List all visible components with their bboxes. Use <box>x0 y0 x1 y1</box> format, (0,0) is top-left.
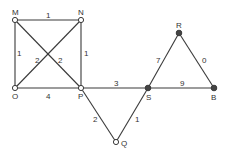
edge-p-q <box>81 88 116 142</box>
node-label-r: R <box>176 21 182 30</box>
edge-s-r <box>148 33 179 88</box>
edge-weight-label: 0 <box>202 56 207 65</box>
node-label-n: N <box>78 8 84 17</box>
labels-layer: MNOPSRBQ <box>12 8 216 148</box>
edge-weight-label: 3 <box>114 79 119 88</box>
edge-weight-label: 2 <box>58 56 63 65</box>
graph-diagram: 111224397021 MNOPSRBQ <box>0 0 229 157</box>
edge-weight-label: 2 <box>35 56 40 65</box>
node-q-icon <box>113 139 118 144</box>
node-label-o: O <box>12 92 18 101</box>
node-n-icon <box>78 17 83 22</box>
edge-weight-label: 1 <box>135 115 140 124</box>
edge-weight-label: 1 <box>84 49 89 58</box>
node-label-s: S <box>146 93 151 102</box>
edge-s-q <box>116 88 148 142</box>
node-s-icon <box>145 85 151 91</box>
node-label-q: Q <box>121 139 127 148</box>
edge-weight-label: 1 <box>17 49 22 58</box>
edge-weight-label: 9 <box>180 79 185 88</box>
node-o-icon <box>12 85 17 90</box>
node-r-icon <box>176 30 182 36</box>
edge-weight-label: 7 <box>156 56 161 65</box>
node-p-icon <box>78 85 83 90</box>
edge-weight-label: 1 <box>46 11 51 20</box>
edge-weight-label: 4 <box>46 92 51 101</box>
node-b-icon <box>211 85 217 91</box>
node-label-p: P <box>78 92 83 101</box>
node-label-b: B <box>211 93 216 102</box>
node-label-m: M <box>12 8 19 17</box>
node-m-icon <box>12 17 17 22</box>
edge-weight-label: 2 <box>93 115 98 124</box>
